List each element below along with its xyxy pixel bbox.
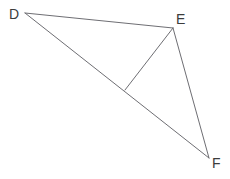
segment-DF: [25, 13, 209, 158]
vertex-label-d: D: [9, 7, 19, 21]
segment-EF: [173, 28, 209, 158]
segment-DE: [25, 13, 173, 28]
vertex-label-f: F: [212, 156, 221, 170]
segment-EG-interior: [125, 28, 173, 90]
geometry-figure: D E F: [0, 0, 230, 179]
vertex-label-e: E: [176, 12, 185, 26]
figure-canvas: [0, 0, 230, 179]
